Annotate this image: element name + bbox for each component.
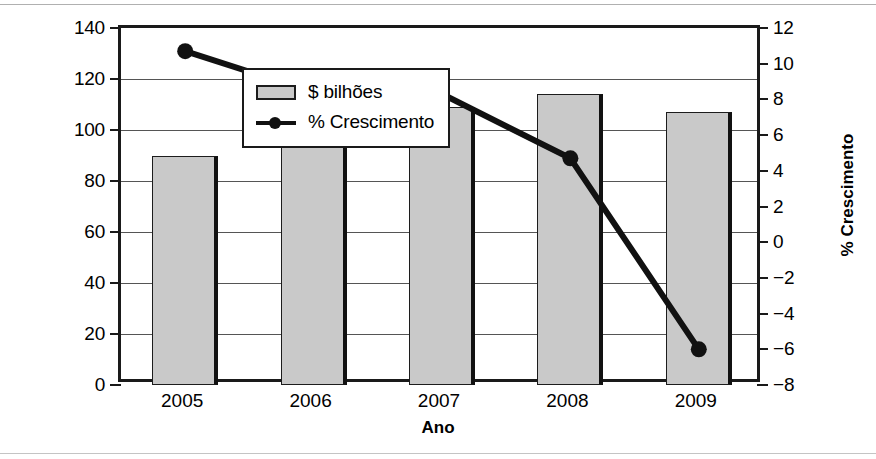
chart-figure: $ bilhões % Crescimento Ano 020406080100… (0, 0, 876, 459)
left-axis-tick (110, 282, 121, 284)
legend-label-bars: $ bilhões (308, 81, 382, 103)
bar (152, 156, 218, 386)
right-axis-tick (757, 206, 768, 208)
plot-area: 020406080100120140 −8−6−4−2024681012 $ b… (118, 25, 760, 382)
left-axis-tick (110, 129, 121, 131)
left-axis-tick (110, 78, 121, 80)
left-axis-tick (110, 333, 121, 335)
x-axis-tick-label: 2008 (546, 390, 588, 412)
right-axis-tick (757, 277, 768, 279)
left-axis-tick-label: 120 (74, 68, 105, 90)
right-axis-tick-label: 6 (773, 124, 783, 146)
chart-legend: $ bilhões % Crescimento (242, 68, 450, 148)
right-axis-tick-label: −8 (773, 374, 794, 396)
left-axis-tick (110, 180, 121, 182)
left-axis-tick-label: 0 (95, 374, 105, 396)
left-axis-tick-label: 100 (74, 119, 105, 141)
right-axis-tick-label: 4 (773, 160, 783, 182)
bar (281, 130, 347, 385)
right-axis-tick (757, 384, 768, 386)
right-axis-tick-label: −6 (773, 338, 794, 360)
right-axis-tick (757, 27, 768, 29)
right-axis-tick-label: 2 (773, 196, 783, 218)
right-axis-tick-label: −2 (773, 267, 794, 289)
left-axis-tick-label: 40 (84, 272, 105, 294)
x-axis-title: Ano (0, 418, 876, 438)
right-axis-tick (757, 63, 768, 65)
right-axis-tick (757, 241, 768, 243)
right-axis-tick (757, 348, 768, 350)
left-axis-tick-label: 140 (74, 17, 105, 39)
right-axis-tick (757, 98, 768, 100)
right-axis-tick (757, 170, 768, 172)
left-axis-tick-label: 20 (84, 323, 105, 345)
left-axis-tick (110, 231, 121, 233)
x-axis-tick-label: 2009 (675, 390, 717, 412)
bar-swatch-icon (256, 85, 296, 100)
left-axis-tick-label: 60 (84, 221, 105, 243)
legend-label-line: % Crescimento (308, 111, 434, 133)
legend-entry-bars: $ bilhões (256, 77, 434, 107)
left-axis-tick (110, 384, 121, 386)
right-axis-title: % Crescimento (838, 134, 858, 257)
x-axis-tick-label: 2007 (418, 390, 460, 412)
x-axis-tick-label: 2006 (289, 390, 331, 412)
x-axis-tick-label: 2005 (161, 390, 203, 412)
legend-entry-line: % Crescimento (256, 107, 434, 137)
bar (666, 112, 732, 385)
right-axis-tick (757, 313, 768, 315)
line-marker-swatch-icon (256, 115, 296, 130)
right-axis-tick-label: 8 (773, 88, 783, 110)
right-axis-tick-label: −4 (773, 303, 794, 325)
left-axis-tick (110, 27, 121, 29)
bar (409, 107, 475, 385)
right-axis-tick-label: 10 (773, 53, 794, 75)
bar (537, 94, 603, 385)
left-axis-tick-label: 80 (84, 170, 105, 192)
right-axis-tick (757, 134, 768, 136)
right-axis-tick-label: 0 (773, 231, 783, 253)
line-marker (177, 43, 193, 59)
right-axis-tick-label: 12 (773, 17, 794, 39)
